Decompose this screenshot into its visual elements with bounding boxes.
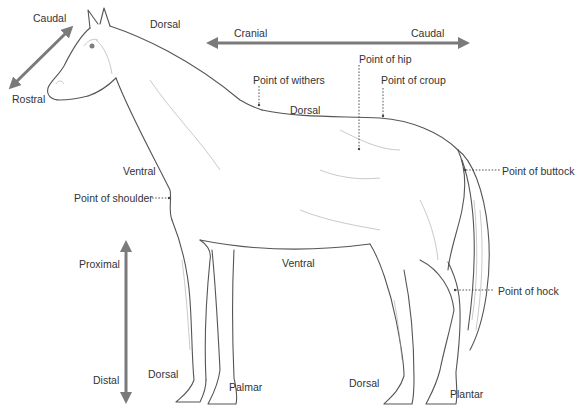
label-dorsal-foreleg: Dorsal	[148, 368, 178, 380]
label-caudal-body: Caudal	[411, 27, 444, 39]
label-ventral-neck: Ventral	[123, 165, 156, 177]
leader-dots	[168, 104, 466, 291]
label-point-of-hock: Point of hock	[498, 285, 559, 297]
leader-lines	[152, 65, 500, 290]
label-point-of-shoulder: Point of shoulder	[74, 192, 153, 204]
label-cranial: Cranial	[234, 27, 267, 39]
label-rostral: Rostral	[12, 93, 45, 105]
label-palmar: Palmar	[229, 381, 262, 393]
label-point-of-buttock: Point of buttock	[502, 165, 574, 177]
arrow-caudal-rostral	[13, 30, 69, 85]
label-distal: Distal	[93, 374, 119, 386]
label-dorsal-back: Dorsal	[290, 104, 320, 116]
label-plantar: Plantar	[450, 388, 483, 400]
horse-anatomy-diagram: Caudal Rostral Dorsal Cranial Caudal Poi…	[0, 0, 581, 410]
label-point-of-withers: Point of withers	[253, 74, 325, 86]
label-dorsal-neck: Dorsal	[150, 18, 180, 30]
label-point-of-croup: Point of croup	[381, 74, 446, 86]
label-point-of-hip: Point of hip	[359, 53, 412, 65]
label-caudal-head: Caudal	[33, 12, 66, 24]
label-dorsal-hindleg: Dorsal	[349, 377, 379, 389]
label-proximal: Proximal	[79, 258, 120, 270]
label-ventral-belly: Ventral	[282, 257, 315, 269]
horse-illustration	[0, 0, 581, 410]
